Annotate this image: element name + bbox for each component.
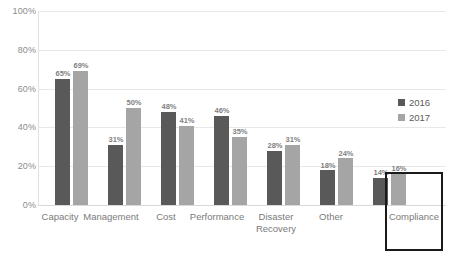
bar-value-2017-performance: 35% bbox=[226, 128, 254, 136]
legend-swatch-icon-2017 bbox=[398, 114, 405, 121]
legend-swatch-icon-2016 bbox=[398, 99, 405, 106]
gridline-80 bbox=[38, 50, 446, 51]
bar-value-2017-other: 24% bbox=[332, 150, 360, 158]
bar-2016-management[interactable] bbox=[108, 145, 123, 205]
x-label-disaster-recovery: Disaster Recovery bbox=[245, 211, 307, 234]
legend-label-2016: 2016 bbox=[409, 98, 430, 108]
bar-2016-other[interactable] bbox=[320, 170, 335, 205]
bar-value-2016-management: 31% bbox=[102, 136, 130, 144]
bar-2017-disaster-recovery[interactable] bbox=[285, 145, 300, 205]
bar-2017-performance[interactable] bbox=[232, 137, 247, 205]
bar-value-2016-capacity: 65% bbox=[49, 70, 77, 78]
bar-chart: 65% 69% 31% 50% 48% 41% 46% 35% 28% 31% bbox=[0, 0, 454, 265]
legend: 2016 2017 bbox=[398, 95, 430, 125]
y-axis: 100% 80% 60% 40% 20% 0% bbox=[0, 0, 36, 265]
legend-item-2017[interactable]: 2017 bbox=[398, 110, 430, 125]
y-tick-80: 80% bbox=[2, 46, 36, 55]
bar-value-2017-cost: 41% bbox=[173, 117, 201, 125]
legend-label-2017: 2017 bbox=[409, 113, 430, 123]
y-axis-line bbox=[38, 11, 39, 205]
y-tick-0: 0% bbox=[2, 201, 36, 210]
bar-value-2016-cost: 48% bbox=[155, 103, 183, 111]
bar-value-2017-capacity: 69% bbox=[67, 62, 95, 70]
y-tick-60: 60% bbox=[2, 85, 36, 94]
legend-item-2016[interactable]: 2016 bbox=[398, 95, 430, 110]
bar-value-2016-performance: 46% bbox=[208, 107, 236, 115]
bar-2016-disaster-recovery[interactable] bbox=[267, 151, 282, 205]
bar-2017-capacity[interactable] bbox=[73, 71, 88, 205]
bar-2016-cost[interactable] bbox=[161, 112, 176, 205]
compliance-highlight-rectangle bbox=[385, 172, 443, 251]
gridline-60 bbox=[38, 89, 446, 90]
y-tick-40: 40% bbox=[2, 123, 36, 132]
bar-2017-management[interactable] bbox=[126, 108, 141, 205]
bar-2017-cost[interactable] bbox=[179, 126, 194, 206]
y-tick-20: 20% bbox=[2, 162, 36, 171]
bar-2016-capacity[interactable] bbox=[55, 79, 70, 205]
x-label-other: Other bbox=[300, 211, 362, 223]
bar-value-2017-disaster-recovery: 31% bbox=[279, 136, 307, 144]
y-tick-100: 100% bbox=[2, 7, 36, 16]
gridline-100 bbox=[38, 11, 446, 12]
bar-value-2017-management: 50% bbox=[120, 99, 148, 107]
x-label-performance: Performance bbox=[182, 211, 252, 223]
bar-value-2016-other: 18% bbox=[314, 162, 342, 170]
